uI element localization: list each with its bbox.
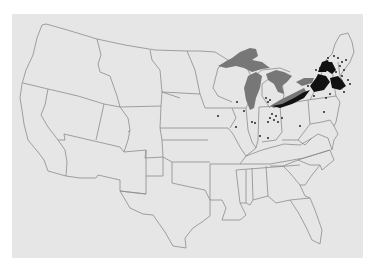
lake-huron <box>266 70 292 94</box>
state-borders <box>20 24 354 248</box>
lake-michigan <box>244 72 262 110</box>
us-map <box>0 0 374 268</box>
great-lakes <box>218 48 314 110</box>
lake-superior <box>218 48 270 72</box>
